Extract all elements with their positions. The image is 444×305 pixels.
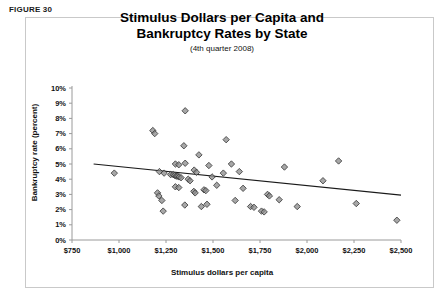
x-tick-label: $2,000 <box>285 246 329 255</box>
y-tick-label: 10% <box>36 84 66 93</box>
x-tick-label: $1,750 <box>238 246 282 255</box>
y-axis-title: Bankruptcy rate (percent) <box>30 93 39 213</box>
data-point <box>206 162 212 168</box>
y-tick-label: 0% <box>36 236 66 245</box>
x-tick-label: $1,000 <box>97 246 141 255</box>
y-tick-label: 5% <box>36 160 66 169</box>
data-point <box>240 185 246 191</box>
data-point <box>111 170 117 176</box>
figure-container: FIGURE 30 Stimulus Dollars per Capita an… <box>0 0 444 305</box>
x-tick-label: $750 <box>50 246 94 255</box>
data-point <box>294 203 300 209</box>
y-tick-label: 8% <box>36 114 66 123</box>
data-point <box>353 200 359 206</box>
data-point <box>220 170 226 176</box>
y-tick-label: 9% <box>36 99 66 108</box>
y-tick-label: 4% <box>36 175 66 184</box>
y-tick-label: 2% <box>36 205 66 214</box>
x-tick-label: $1,250 <box>144 246 188 255</box>
data-point <box>320 178 326 184</box>
plot-area: 0%1%2%3%4%5%6%7%8%9%10% $750$1,000$1,250… <box>0 0 444 305</box>
scatter-plot-svg <box>0 0 444 305</box>
data-point <box>181 143 187 149</box>
data-point <box>232 197 238 203</box>
trend-line <box>94 164 401 195</box>
points-group <box>111 108 400 224</box>
x-tick-label: $1,500 <box>191 246 235 255</box>
y-tick-label: 1% <box>36 220 66 229</box>
data-point <box>228 161 234 167</box>
data-point <box>209 174 215 180</box>
y-tick-label: 3% <box>36 190 66 199</box>
data-point <box>276 197 282 203</box>
data-point <box>182 202 188 208</box>
data-point <box>236 168 242 174</box>
data-point <box>394 217 400 223</box>
x-tick-label: $2,500 <box>379 246 423 255</box>
data-point <box>196 152 202 158</box>
data-point <box>182 160 188 166</box>
data-point <box>335 158 341 164</box>
data-point <box>160 208 166 214</box>
y-tick-label: 7% <box>36 129 66 138</box>
tick-group <box>69 88 401 243</box>
x-axis-title: Stimulus dollars per capita <box>0 268 444 277</box>
data-point <box>281 164 287 170</box>
data-point <box>214 182 220 188</box>
trendline-group <box>94 164 401 195</box>
x-tick-label: $2,250 <box>332 246 376 255</box>
y-tick-label: 6% <box>36 144 66 153</box>
data-point <box>223 136 229 142</box>
axes-group <box>72 86 401 240</box>
data-point <box>182 108 188 114</box>
